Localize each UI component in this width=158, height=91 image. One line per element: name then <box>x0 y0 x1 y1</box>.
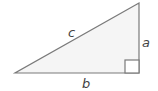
right-triangle-diagram: c a b <box>0 0 158 91</box>
right-angle-marker <box>125 60 139 73</box>
triangle <box>15 3 139 73</box>
label-b: b <box>82 76 90 91</box>
label-a: a <box>142 35 150 50</box>
label-c: c <box>68 25 75 40</box>
